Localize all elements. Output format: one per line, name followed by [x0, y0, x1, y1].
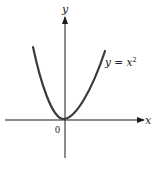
curve-equation-exponent: 2: [132, 56, 136, 64]
parabola-graph: y x 0 y = x2: [0, 0, 154, 169]
y-axis-label: y: [61, 3, 69, 16]
curve-equation-base: y = x: [104, 56, 132, 68]
curve-equation-label: y = x2: [104, 56, 137, 68]
parabola-curve: [33, 47, 105, 119]
origin-label: 0: [55, 124, 60, 135]
x-axis-label: x: [145, 114, 152, 127]
